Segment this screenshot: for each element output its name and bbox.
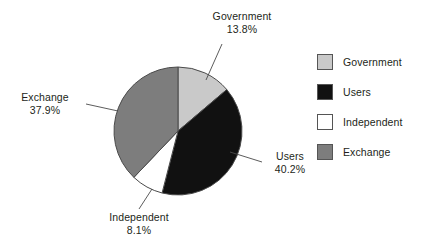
slice-callout-users: Users 40.2% [262, 150, 318, 175]
slice-callout-independent-label: Independent [92, 211, 186, 224]
leader-line-government [206, 44, 222, 80]
leader-line-independent [139, 189, 152, 209]
legend-label-users: Users [343, 86, 371, 98]
legend-item-independent[interactable]: Independent [317, 107, 437, 137]
slice-callout-independent: Independent 8.1% [92, 211, 186, 236]
slice-callout-government: Government 13.8% [196, 10, 288, 35]
pie-chart: Government 13.8% Exchange 37.9% Users 40… [0, 0, 441, 245]
slice-callout-exchange: Exchange 37.9% [6, 91, 84, 116]
legend-label-independent: Independent [343, 116, 403, 128]
legend-swatch-exchange [317, 144, 333, 160]
slice-callout-government-label: Government [196, 10, 288, 23]
legend-label-exchange: Exchange [343, 146, 391, 158]
legend-swatch-users [317, 84, 333, 100]
slice-callout-independent-value: 8.1% [92, 224, 186, 237]
slice-callout-users-value: 40.2% [262, 163, 318, 176]
legend-label-government: Government [343, 56, 402, 68]
leader-line-exchange [86, 104, 118, 111]
slice-callout-exchange-value: 37.9% [6, 104, 84, 117]
pie-slices [114, 67, 242, 195]
chart-legend: Government Users Independent Exchange [317, 47, 437, 167]
legend-item-exchange[interactable]: Exchange [317, 137, 437, 167]
legend-item-government[interactable]: Government [317, 47, 437, 77]
slice-callout-government-value: 13.8% [196, 23, 288, 36]
legend-item-users[interactable]: Users [317, 77, 437, 107]
slice-callout-exchange-label: Exchange [6, 91, 84, 104]
slice-callout-users-label: Users [262, 150, 318, 163]
legend-swatch-government [317, 54, 333, 70]
legend-swatch-independent [317, 114, 333, 130]
